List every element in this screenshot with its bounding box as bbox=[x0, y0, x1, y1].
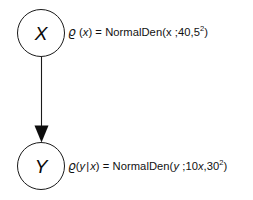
node-x-label: X bbox=[35, 24, 48, 43]
node-y[interactable]: Y bbox=[17, 142, 65, 190]
node-y-label: Y bbox=[35, 157, 48, 176]
edge-x-to-y-arrowhead bbox=[35, 126, 49, 143]
diagram-canvas: X Y ϱ (x) = NormalDen(x ;40,52) ϱ(y|x) =… bbox=[0, 0, 253, 200]
node-x[interactable]: X bbox=[17, 9, 65, 57]
